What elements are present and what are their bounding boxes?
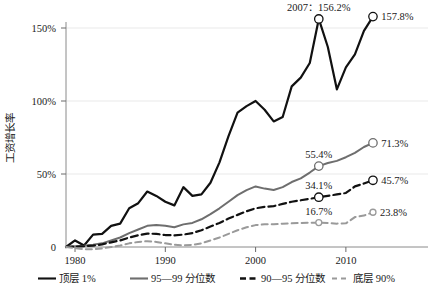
legend-label: 90—95 分位数 bbox=[261, 272, 326, 284]
data-point-marker bbox=[315, 193, 323, 201]
x-tick-label: 2000 bbox=[245, 255, 266, 266]
x-tick-label: 2010 bbox=[335, 255, 356, 266]
y-tick-label: 50% bbox=[37, 169, 57, 180]
data-point-marker bbox=[369, 12, 377, 20]
annotation-label: 16.7% bbox=[305, 206, 332, 217]
wage-growth-line-chart: 050%100%150% 1980199020002010 工资增长率 2007… bbox=[0, 0, 435, 297]
data-point-marker bbox=[315, 15, 323, 23]
x-tick-label: 1990 bbox=[155, 255, 176, 266]
x-axis-ticks: 1980199020002010 bbox=[65, 247, 357, 266]
legend-label: 底层 90% bbox=[353, 272, 395, 284]
annotation-label: 55.4% bbox=[305, 149, 332, 160]
data-point-marker bbox=[369, 176, 377, 184]
x-tick-label: 1980 bbox=[65, 255, 86, 266]
data-point-marker bbox=[315, 162, 323, 170]
annotation-label: 23.8% bbox=[380, 207, 407, 218]
annotation-label: 157.8% bbox=[381, 11, 414, 22]
chart-container: 050%100%150% 1980199020002010 工资增长率 2007… bbox=[0, 0, 435, 297]
data-point-marker bbox=[316, 220, 322, 226]
data-annotations: 2007：156.2%157.8%55.4%71.3%34.1%45.7%16.… bbox=[287, 2, 414, 218]
y-tick-label: 0 bbox=[51, 242, 56, 253]
legend-label: 顶层 1% bbox=[59, 273, 96, 284]
gridlines bbox=[66, 28, 428, 174]
legend-label: 95—99 分位数 bbox=[151, 272, 216, 284]
y-axis-ticks: 050%100%150% bbox=[32, 23, 67, 253]
y-tick-label: 100% bbox=[32, 96, 57, 107]
annotation-label: 71.3% bbox=[381, 138, 408, 149]
series-line bbox=[66, 212, 373, 249]
y-axis-title: 工资增长率 bbox=[4, 113, 16, 163]
annotation-label: 45.7% bbox=[381, 175, 408, 186]
chart-legend: 顶层 1%95—99 分位数90—95 分位数底层 90% bbox=[38, 272, 395, 284]
y-tick-label: 150% bbox=[32, 23, 57, 34]
annotation-label: 34.1% bbox=[305, 180, 332, 191]
data-point-marker bbox=[370, 209, 376, 215]
data-point-marker bbox=[369, 139, 377, 147]
annotation-label: 2007：156.2% bbox=[287, 2, 351, 13]
